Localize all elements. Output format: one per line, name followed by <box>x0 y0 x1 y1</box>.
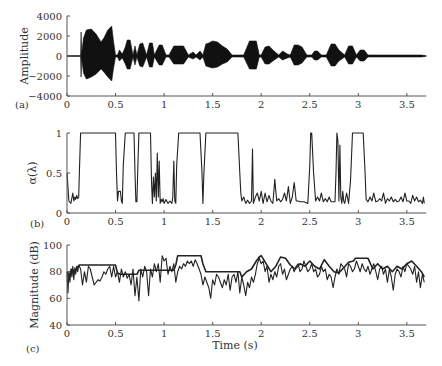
x-tick-label: 0.5 <box>108 328 124 339</box>
panel-b: α(λ) 00.5100.511.522.533.5 (b) <box>26 128 426 230</box>
x-tick-label: 1 <box>161 99 167 110</box>
y-tick-label: 0.5 <box>46 168 62 179</box>
x-tick-label: 3 <box>355 328 361 339</box>
panel-c-axes: 40608010000.511.522.533.5 <box>43 240 426 340</box>
panel-c-label: (c) <box>26 343 40 354</box>
y-tick-label: 100 <box>43 240 62 251</box>
y-tick-label: 0 <box>56 51 62 62</box>
figure: Amplitude −4000−200002000400000.511.522.… <box>0 0 442 366</box>
panel-b-axes: 00.5100.511.522.533.5 <box>46 128 426 228</box>
panel-a: Amplitude −4000−200002000400000.511.522.… <box>15 11 426 111</box>
y-tick-label: 1 <box>56 128 62 139</box>
x-tick-label: 0.5 <box>108 216 124 227</box>
x-tick-label: 2 <box>258 216 264 227</box>
y-tick-label: 4000 <box>37 11 62 22</box>
y-tick-label: 0 <box>56 208 62 219</box>
x-tick-label: 1.5 <box>205 328 221 339</box>
x-tick-label: 3.5 <box>399 216 415 227</box>
x-tick-label: 3.5 <box>399 99 415 110</box>
x-tick-label: 3 <box>355 99 361 110</box>
x-tick-label: 2 <box>258 328 264 339</box>
x-tick-label: 2.5 <box>302 99 318 110</box>
x-tick-label: 2.5 <box>302 216 318 227</box>
panel-c-ylabel: Magnitude (dB) <box>28 241 41 329</box>
x-tick-label: 1 <box>161 328 167 339</box>
series-line <box>67 133 424 203</box>
y-tick-label: −4000 <box>28 91 62 102</box>
x-tick-label: 3.5 <box>399 328 415 339</box>
x-tick-label: 1.5 <box>205 216 221 227</box>
x-tick-label: 2.5 <box>302 328 318 339</box>
x-tick-label: 0.5 <box>108 99 124 110</box>
y-tick-label: 80 <box>49 266 62 277</box>
x-tick-label: 1 <box>161 216 167 227</box>
panel-b-plot-area <box>67 133 424 203</box>
x-tick-label: 0 <box>64 328 70 339</box>
x-tick-label: 0 <box>64 216 70 227</box>
y-tick-label: 40 <box>49 320 62 331</box>
x-tick-label: 1.5 <box>205 99 221 110</box>
panel-b-ylabel: α(λ) <box>26 162 39 185</box>
y-tick-label: 2000 <box>37 31 62 42</box>
panel-b-label: (b) <box>30 218 44 229</box>
y-tick-label: 60 <box>49 293 62 304</box>
waveform <box>67 26 426 81</box>
x-tick-label: 2 <box>258 99 264 110</box>
y-tick-label: −2000 <box>28 71 62 82</box>
x-tick-label: 3 <box>355 216 361 227</box>
x-axis-title: Time (s) <box>212 339 258 352</box>
panel-a-label: (a) <box>15 99 29 110</box>
panel-a-plot-area <box>67 26 426 81</box>
panel-c-plot-area <box>67 256 424 301</box>
panel-c: Magnitude (dB) 40608010000.511.522.533.5… <box>26 240 426 355</box>
x-tick-label: 0 <box>64 99 70 110</box>
